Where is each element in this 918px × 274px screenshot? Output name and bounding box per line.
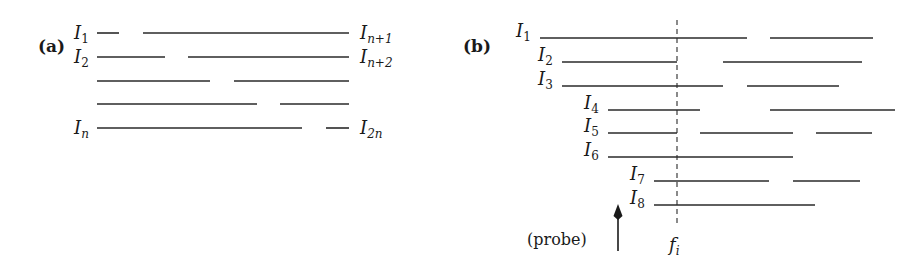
interval-label: I4 [583, 92, 599, 116]
interval-label: I7 [629, 163, 645, 187]
interval-label: I1 [515, 20, 531, 44]
interval-row: I6 [583, 139, 793, 163]
interval-label: In+1 [359, 22, 393, 46]
interval-row: I2 [537, 44, 862, 68]
interval-row: I7 [629, 163, 860, 187]
interval-row: I3 [537, 68, 839, 92]
panel-a: (a) I1I2In In+1In+2I2n [38, 22, 393, 141]
interval-label: In+2 [359, 46, 393, 70]
interval-label: In [73, 117, 89, 141]
interval-row: I8 [629, 187, 815, 211]
probe-label: (probe) [527, 230, 587, 249]
interval-label: I2 [73, 46, 89, 70]
panel-a-label: (a) [38, 36, 65, 56]
interval-label: I6 [583, 139, 599, 163]
panel-a-left-labels: I1I2In [73, 22, 89, 141]
interval-row: I1 [515, 20, 873, 44]
interval-label: I2n [359, 117, 383, 141]
panel-b-label: (b) [463, 36, 491, 56]
probe-arrow-icon [614, 204, 623, 251]
interval-label: I2 [537, 44, 553, 68]
fi-label: fi [667, 234, 680, 258]
interval-label: I1 [73, 22, 89, 46]
panel-b-intervals: I1I2I3I4I5I6I7I8 [515, 20, 895, 211]
interval-label: I8 [629, 187, 645, 211]
panel-a-intervals [97, 33, 349, 128]
panel-a-right-labels: In+1In+2I2n [359, 22, 393, 141]
interval-row: I4 [583, 92, 895, 116]
panel-b: (b) I1I2I3I4I5I6I7I8 (probe) fi [463, 20, 895, 258]
interval-diagram: (a) I1I2In In+1In+2I2n (b) I1I2I3I4I5I6I… [0, 0, 918, 274]
interval-label: I5 [583, 115, 599, 139]
interval-label: I3 [537, 68, 553, 92]
interval-row: I5 [583, 115, 872, 139]
